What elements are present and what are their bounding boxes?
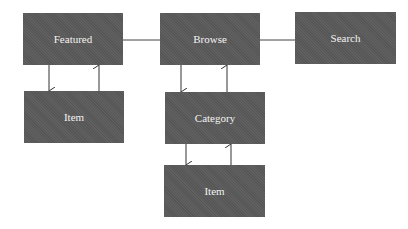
node-item-category-label: Item <box>204 185 224 197</box>
node-search-label: Search <box>331 32 361 44</box>
node-search: Search <box>295 12 396 64</box>
node-featured: Featured <box>23 13 123 65</box>
node-browse-label: Browse <box>193 33 227 45</box>
node-item-featured: Item <box>24 91 124 143</box>
node-category-label: Category <box>195 112 235 124</box>
node-featured-label: Featured <box>54 33 92 45</box>
node-category: Category <box>165 92 265 144</box>
node-browse: Browse <box>160 13 260 65</box>
node-item-category: Item <box>164 165 265 217</box>
node-item-featured-label: Item <box>64 111 84 123</box>
